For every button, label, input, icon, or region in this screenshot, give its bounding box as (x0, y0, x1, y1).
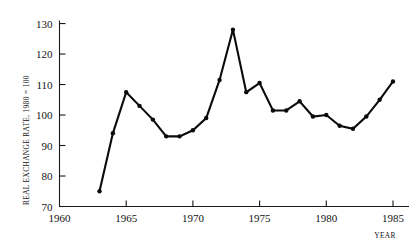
data-point-marker (337, 124, 341, 128)
data-point-marker (124, 90, 128, 94)
data-point-marker (271, 108, 275, 112)
data-point-marker (391, 79, 395, 83)
chart-tick-labels: 7080901001101201301960196519701975198019… (36, 18, 404, 224)
y-tick-label: 100 (36, 109, 53, 121)
chart-axes (60, 21, 410, 207)
data-point-marker (97, 189, 101, 193)
x-tick-label: 1980 (315, 212, 338, 224)
data-point-marker (191, 128, 195, 132)
x-tick-label: 1965 (115, 212, 138, 224)
data-point-marker (377, 98, 381, 102)
x-tick-label: 1970 (182, 212, 205, 224)
data-point-marker (177, 134, 181, 138)
data-point-marker (257, 81, 261, 85)
data-point-marker (311, 114, 315, 118)
data-point-marker (284, 108, 288, 112)
data-point-marker (111, 131, 115, 135)
chart-figure: 7080901001101201301960196519701975198019… (0, 0, 416, 246)
data-point-marker (297, 99, 301, 103)
y-axis-label: REAL EXCHANGE RATE, 1980 = 100 (22, 75, 31, 205)
chart-series (100, 30, 393, 192)
y-tick-label: 130 (36, 18, 53, 30)
x-tick-label: 1985 (382, 212, 405, 224)
series-line (100, 30, 393, 192)
data-point-marker (204, 116, 208, 120)
data-point-marker (164, 134, 168, 138)
data-point-marker (351, 127, 355, 131)
data-point-marker (137, 104, 141, 108)
y-tick-label: 110 (36, 79, 53, 91)
y-tick-label: 80 (42, 170, 54, 182)
data-point-marker (364, 114, 368, 118)
y-tick-label: 90 (42, 140, 54, 152)
y-tick-label: 120 (36, 48, 53, 60)
data-point-marker (244, 90, 248, 94)
chart-data-points (97, 27, 395, 193)
data-point-marker (217, 78, 221, 82)
line-chart-plot: 7080901001101201301960196519701975198019… (0, 0, 416, 246)
x-tick-label: 1960 (49, 212, 72, 224)
x-axis-label: YEAR (374, 231, 396, 240)
data-point-marker (231, 27, 235, 31)
x-tick-label: 1975 (249, 212, 272, 224)
data-point-marker (151, 117, 155, 121)
data-point-marker (324, 113, 328, 117)
